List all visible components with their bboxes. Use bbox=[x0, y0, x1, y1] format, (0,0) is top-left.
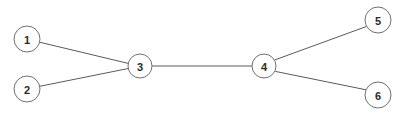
edge-4-6 bbox=[275, 71, 366, 89]
node-4[interactable]: 4 bbox=[252, 54, 276, 78]
node-5[interactable]: 5 bbox=[365, 7, 391, 33]
edge-4-5 bbox=[275, 27, 367, 61]
node-3-label: 3 bbox=[137, 61, 143, 73]
node-1[interactable]: 1 bbox=[14, 26, 40, 52]
graph-diagram-canvas: 1 2 3 4 5 6 bbox=[0, 0, 408, 118]
edge-1-3 bbox=[40, 42, 129, 63]
node-2[interactable]: 2 bbox=[14, 76, 40, 102]
node-6[interactable]: 6 bbox=[365, 82, 391, 108]
node-6-label: 6 bbox=[375, 90, 381, 102]
edge-layer bbox=[40, 27, 367, 90]
node-3[interactable]: 3 bbox=[128, 54, 152, 78]
node-2-label: 2 bbox=[24, 84, 30, 96]
graph-svg: 1 2 3 4 5 6 bbox=[0, 0, 408, 118]
node-1-label: 1 bbox=[24, 34, 30, 46]
node-4-label: 4 bbox=[261, 61, 268, 73]
edge-2-3 bbox=[40, 69, 129, 87]
node-5-label: 5 bbox=[375, 15, 381, 27]
node-layer: 1 2 3 4 5 6 bbox=[14, 7, 391, 108]
